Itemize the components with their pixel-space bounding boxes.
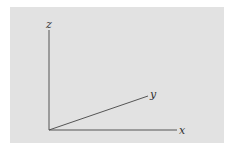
y-axis-line bbox=[49, 96, 148, 130]
y-axis-label: y bbox=[149, 88, 157, 101]
axes-diagram: x y z bbox=[0, 0, 234, 150]
x-axis-label: x bbox=[179, 124, 186, 137]
z-axis-label: z bbox=[45, 18, 52, 31]
